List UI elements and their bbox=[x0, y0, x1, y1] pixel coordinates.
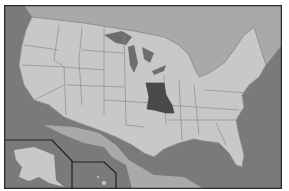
us-map bbox=[4, 5, 282, 189]
hawaii bbox=[102, 181, 106, 185]
map-svg bbox=[4, 5, 282, 189]
